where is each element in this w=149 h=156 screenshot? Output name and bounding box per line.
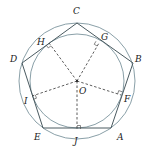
- label-O: O: [79, 86, 87, 96]
- label-A: A: [116, 132, 124, 142]
- label-G: G: [101, 32, 108, 42]
- label-F: F: [123, 94, 131, 104]
- pentagon-diagram: ABCDEFGHIJO: [0, 0, 149, 156]
- center-point: [76, 80, 78, 82]
- label-D: D: [9, 54, 17, 64]
- right-angle-mark-F: [118, 91, 122, 94]
- apothem-H: [49, 43, 77, 81]
- apothem-G: [77, 43, 99, 81]
- point-labels: ABCDEFGHIJO: [9, 6, 142, 146]
- apothem-I: [32, 81, 77, 96]
- label-E: E: [33, 132, 41, 142]
- right-angle-mark-G: [94, 41, 97, 46]
- label-C: C: [73, 6, 80, 16]
- right-angle-mark-H: [46, 45, 51, 48]
- label-B: B: [134, 54, 142, 64]
- label-J: J: [72, 136, 79, 146]
- label-H: H: [36, 37, 45, 47]
- label-I: I: [23, 96, 28, 106]
